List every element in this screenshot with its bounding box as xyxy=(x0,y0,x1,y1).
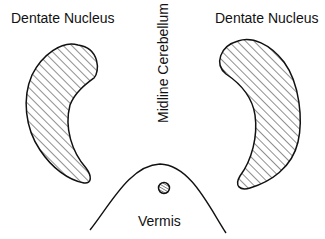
vermis-dot xyxy=(159,183,170,194)
midline-cerebellum-label: Midline Cerebellum xyxy=(155,3,171,123)
right-dentate-nucleus-shape xyxy=(220,40,300,189)
left-dentate-nucleus-label: Dentate Nucleus xyxy=(11,10,115,26)
vermis-label: Vermis xyxy=(138,213,181,229)
right-dentate-nucleus-label: Dentate Nucleus xyxy=(215,10,319,26)
left-dentate-nucleus-shape xyxy=(26,44,97,183)
